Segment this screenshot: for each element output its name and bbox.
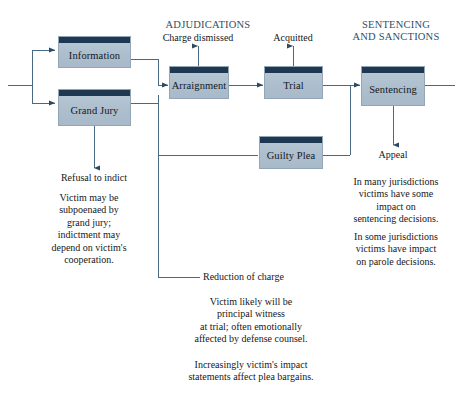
section-header-adjudications: ADJUDICATIONS xyxy=(148,19,268,31)
label-charge-dismissed: Charge dismissed xyxy=(140,32,256,44)
node-label: Information xyxy=(69,50,120,61)
flowchart-canvas: Information Grand Jury Arraignment Trial… xyxy=(0,0,465,393)
node-information[interactable]: Information xyxy=(58,36,131,68)
node-header-bar xyxy=(265,67,322,73)
node-label: Trial xyxy=(283,80,304,91)
node-label: Grand Jury xyxy=(71,105,119,116)
node-trial[interactable]: Trial xyxy=(264,66,323,99)
node-header-bar xyxy=(362,67,424,73)
label-refusal-to-indict: Refusal to indict xyxy=(34,172,154,184)
node-label: Sentencing xyxy=(369,84,417,95)
note-parole-impact: In some jurisdictions victims have impac… xyxy=(329,231,463,268)
node-sentencing[interactable]: Sentencing xyxy=(361,66,425,106)
note-grand-jury: Victim may be subpoenaed by grand jury; … xyxy=(24,192,154,266)
node-arraignment[interactable]: Arraignment xyxy=(169,66,229,99)
node-header-bar xyxy=(170,67,228,73)
node-grand-jury[interactable]: Grand Jury xyxy=(58,89,131,126)
node-label: Arraignment xyxy=(172,80,227,91)
note-sentencing-impact: In many jurisdictions victims have some … xyxy=(329,176,463,226)
label-acquitted: Acquitted xyxy=(250,32,336,44)
label-reduction-of-charge: Reduction of charge xyxy=(203,271,323,283)
note-trial-witness: Victim likely will be principal witness … xyxy=(136,296,366,346)
label-appeal: Appeal xyxy=(353,149,433,161)
node-header-bar xyxy=(260,137,322,143)
node-label: Guilty Plea xyxy=(267,150,316,161)
node-header-bar xyxy=(59,37,130,43)
section-header-sentencing-and-sanctions: SENTENCING AND SANCTIONS xyxy=(336,19,456,43)
note-plea-bargain: Increasingly victim's impact statements … xyxy=(136,359,366,384)
node-header-bar xyxy=(59,90,130,96)
node-guilty-plea[interactable]: Guilty Plea xyxy=(259,136,323,169)
